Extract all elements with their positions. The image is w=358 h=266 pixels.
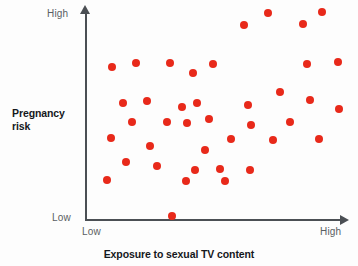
data-point	[166, 59, 174, 67]
data-point	[178, 103, 186, 111]
data-point	[247, 121, 255, 129]
data-point	[201, 146, 209, 154]
y-axis-title: Pregnancy risk	[12, 107, 84, 133]
data-point	[244, 101, 252, 109]
x-axis-high-label: High	[320, 226, 341, 237]
data-point	[191, 166, 199, 174]
data-point	[122, 158, 130, 166]
data-point	[146, 142, 154, 150]
data-point	[286, 118, 294, 126]
data-point	[163, 118, 171, 126]
data-point	[128, 118, 136, 126]
data-point	[318, 8, 326, 16]
data-point	[182, 177, 190, 185]
data-point	[107, 134, 115, 142]
data-point	[119, 99, 127, 107]
data-point	[306, 96, 314, 104]
data-point	[299, 20, 307, 28]
data-point	[143, 97, 151, 105]
data-point	[269, 136, 277, 144]
y-axis-low-label: Low	[52, 212, 71, 223]
data-point	[168, 212, 176, 220]
data-point	[276, 88, 284, 96]
data-point	[335, 105, 343, 113]
data-point	[264, 9, 272, 17]
data-point	[227, 135, 235, 143]
x-axis-low-label: Low	[82, 226, 101, 237]
data-point	[334, 58, 342, 66]
data-point	[240, 21, 248, 29]
y-axis-high-label: High	[47, 8, 68, 19]
data-point	[183, 119, 191, 127]
data-point	[103, 176, 111, 184]
data-point	[303, 60, 311, 68]
data-point	[209, 60, 217, 68]
data-point	[205, 115, 213, 123]
x-axis-title: Exposure to sexual TV content	[0, 248, 358, 260]
data-point	[221, 177, 229, 185]
data-point	[315, 135, 323, 143]
data-point	[132, 59, 140, 67]
data-point	[193, 99, 201, 107]
data-point	[246, 166, 254, 174]
data-point	[189, 69, 197, 77]
scatter-plot-figure: High Low Low High Pregnancy risk Exposur…	[0, 0, 358, 266]
data-point	[108, 63, 116, 71]
plot-area	[85, 10, 346, 220]
data-point	[216, 165, 224, 173]
data-point	[153, 162, 161, 170]
